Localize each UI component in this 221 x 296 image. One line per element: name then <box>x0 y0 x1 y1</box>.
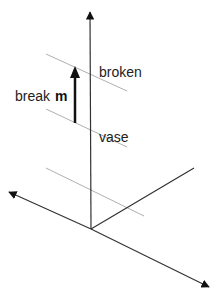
vertical-axis-arrow <box>90 12 91 229</box>
left-axis-arrow <box>9 192 91 229</box>
break-label: break <box>15 88 51 104</box>
right-up-axis <box>91 168 194 229</box>
broken-label: broken <box>99 64 142 80</box>
vase-label: vase <box>99 129 129 145</box>
right-down-axis-arrow <box>91 229 209 287</box>
vector-m-arrowhead-icon <box>70 66 80 78</box>
origin-plane-line <box>46 168 144 216</box>
vector-m-label: m <box>55 88 67 104</box>
diagram-canvas: broken vase break m <box>0 0 221 296</box>
